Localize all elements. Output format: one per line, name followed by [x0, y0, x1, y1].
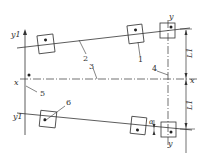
diagram-canvas: y1 y1 x x y y 1 2 3 4 5 6 L1 L1 α [0, 0, 207, 157]
leader-2 [79, 40, 86, 54]
block-6 [39, 110, 57, 128]
label-x-left: x [14, 78, 19, 87]
y1-axis [23, 29, 27, 135]
callout-4: 4 [152, 64, 157, 73]
origin-dot [28, 74, 31, 77]
label-y1-top: y1 [10, 30, 21, 39]
label-x-right: x [190, 76, 195, 85]
label-L1-lower: L1 [185, 100, 194, 111]
bottom-rail [17, 113, 192, 130]
label-alpha: α [149, 118, 154, 126]
callout-1: 1 [138, 55, 143, 64]
label-y-top: y [168, 12, 174, 21]
callout-6: 6 [66, 98, 71, 107]
callout-5: 5 [40, 89, 45, 98]
callout-2: 2 [83, 54, 88, 63]
label-y-bottom: y [167, 139, 173, 148]
block-bottom-right [161, 122, 176, 137]
callout-3: 3 [89, 62, 94, 71]
leader-4 [157, 71, 168, 75]
label-L1-upper: L1 [185, 48, 194, 59]
leader-6 [46, 106, 65, 120]
leader-5 [26, 86, 37, 92]
label-y1-bottom: y1 [12, 112, 23, 121]
leader-1 [138, 42, 140, 56]
